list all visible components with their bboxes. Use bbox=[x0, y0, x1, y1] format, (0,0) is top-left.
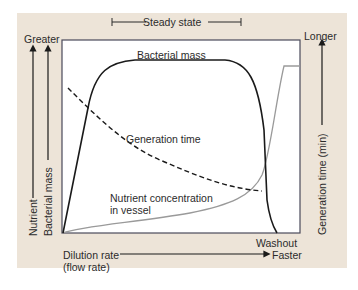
nutrient-curve-label-1: Nutrient concentration bbox=[110, 192, 213, 204]
nutrient-curve-label-2: in vessel bbox=[110, 204, 151, 216]
generation-time-axis-label: Generation time (min) bbox=[316, 133, 328, 235]
generation-time-curve-label: Generation time bbox=[126, 133, 201, 145]
greater-label: Greater bbox=[24, 33, 60, 45]
dilution-rate-label: Dilution rate bbox=[63, 249, 119, 261]
flow-rate-label: (flow rate) bbox=[63, 261, 110, 273]
longer-label: Longer bbox=[304, 30, 337, 42]
washout-label: Washout bbox=[256, 237, 297, 249]
steady-state-label: Steady state bbox=[143, 16, 201, 28]
bacterial-mass-axis-label: Bacterial mass bbox=[42, 167, 54, 236]
bacterial-mass-curve-label: Bacterial mass bbox=[137, 49, 206, 61]
faster-label: Faster bbox=[272, 249, 302, 261]
nutrient-axis-label: Nutrient bbox=[27, 199, 39, 236]
